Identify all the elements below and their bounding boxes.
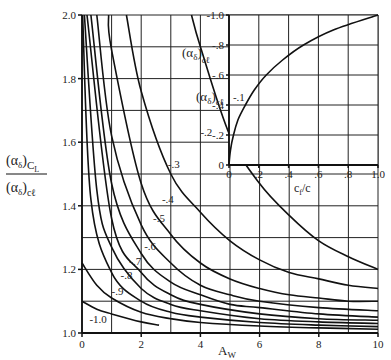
main-y-tick-label: 2.0	[62, 9, 76, 21]
inset-x-label-tail: /c	[302, 181, 311, 195]
x-label-sub: W	[227, 350, 236, 360]
y-label-num-open: (α	[6, 153, 19, 169]
series-label: -.5	[153, 212, 165, 224]
main-y-tick-label: 1.6	[62, 136, 76, 148]
inset-y-tick-label: -.6	[212, 69, 224, 81]
inset-x-tick-label: 0	[226, 168, 232, 180]
main-x-axis-label: AW	[218, 343, 236, 360]
inset-x-axis-label: cf/c	[294, 181, 311, 197]
main-y-tick-label: 1.2	[62, 263, 76, 275]
inset-x-tick-label: .4	[284, 168, 293, 180]
inset-background	[229, 15, 378, 165]
series-label: -.3	[168, 158, 180, 170]
series-label: -.1	[233, 91, 245, 103]
y-label-num-subscript2: L	[34, 165, 39, 174]
legend-title-open: (α	[196, 89, 207, 104]
series-label: -.4	[162, 193, 174, 205]
main-y-tick-label: 1.0	[62, 327, 76, 339]
main-x-tick-label: 0	[79, 338, 85, 350]
main-y-tick-label: 1.4	[62, 200, 76, 212]
y-label-den-subscript: cℓ	[27, 187, 36, 198]
inset-y-label-subscript: cℓ	[202, 55, 210, 65]
main-x-tick-label: 2	[138, 338, 144, 350]
inset-x-tick-label: .2	[255, 168, 263, 180]
main-y-axis-label: (αδ)CL (αδ)cℓ	[6, 153, 47, 198]
inset-x-tick-label: .8	[344, 168, 353, 180]
main-y-tick-label: 1.8	[62, 73, 76, 85]
inset-y-tick-label: 0	[219, 159, 225, 171]
series-label: -.6	[144, 240, 156, 252]
inset-x-tick-label: 1.0	[371, 168, 385, 180]
y-label-den-open: (α	[6, 180, 19, 196]
series-label: -.7	[129, 255, 141, 267]
main-x-tick-label: 6	[257, 338, 263, 350]
inset-y-tick-label: -.2	[212, 129, 224, 141]
series-label: -1.0	[89, 313, 107, 325]
main-x-tick-label: 4	[198, 338, 204, 350]
chart-figure: 02468101.01.21.41.61.82.0 0.2.4.6.81.00-…	[0, 0, 391, 360]
svg-text:(αδ)cℓ: (αδ)cℓ	[6, 180, 36, 198]
svg-text:(αδ)CL: (αδ)CL	[6, 153, 39, 174]
y-label-num-subscript: C	[27, 159, 34, 171]
inset-y-label-open: (α	[182, 45, 193, 60]
main-x-tick-label: 8	[316, 338, 322, 350]
inset-y-tick-label: -.8	[212, 39, 224, 51]
series-label: -.2	[200, 126, 212, 138]
legend-title-subscript: cℓ	[216, 97, 224, 107]
inset-x-tick-label: .6	[314, 168, 323, 180]
series-label: -.9	[112, 285, 124, 297]
inset-y-axis-label: (αδ)cℓ	[182, 45, 210, 65]
series-label: -.8	[120, 269, 132, 281]
inset-y-tick-label: -1.0	[207, 9, 225, 21]
main-x-tick-label: 10	[373, 338, 385, 350]
series-labels: -.1-.2-.3-.4-.5-.6-.7-.8-.9-1.0	[89, 91, 244, 326]
